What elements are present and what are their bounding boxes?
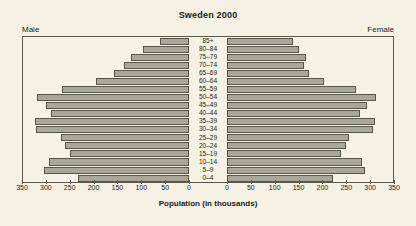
age-group-label: 70–74 [189,61,227,69]
bar-male [160,38,189,45]
tick-label: 150 [112,184,124,191]
bar-female [227,110,360,117]
population-pyramid-chart: Sweden 2000 Male Female 85+80–8475–7970–… [0,0,416,226]
pyramid-row [227,158,393,166]
bar-female [227,150,341,157]
pyramid-row [227,118,393,126]
pyramid-row [227,69,393,77]
age-group-label: 20–24 [189,142,227,150]
pyramid-row [23,126,189,134]
bar-female [227,142,346,149]
age-group-label: 30–34 [189,126,227,134]
tick-label: 0 [187,184,191,191]
bar-female [227,175,333,182]
bar-female [227,70,309,77]
tick-label: 50 [161,184,169,191]
bar-female [227,62,304,69]
bar-female [227,134,349,141]
age-group-label: 40–44 [189,110,227,118]
age-group-label: 10–14 [189,158,227,166]
pyramid-row [23,166,189,174]
x-axis-title: Population (in thousands) [0,199,416,208]
bar-male [61,134,189,141]
pyramid-row [227,174,393,182]
bar-female [227,158,362,165]
tick-label: 350 [388,184,400,191]
bar-female [227,126,373,133]
pyramid-row [23,85,189,93]
bar-male [114,70,189,77]
tick-label: 100 [135,184,147,191]
age-group-label: 55–59 [189,85,227,93]
tick-label: 250 [64,184,76,191]
pyramid-row [23,134,189,142]
tick-label: 50 [247,184,255,191]
pyramid-row [227,142,393,150]
tick-label: 150 [293,184,305,191]
male-bar-rows [23,37,189,182]
tick-label: 200 [88,184,100,191]
pyramid-row [227,166,393,174]
male-plot-panel [22,36,189,183]
age-group-labels: 85+80–8475–7970–7465–6960–6455–5950–5445… [189,36,227,183]
age-group-label: 85+ [189,37,227,45]
pyramid-row [227,126,393,134]
pyramid-row [23,158,189,166]
pyramid-row [23,110,189,118]
bar-female [227,78,324,85]
tick-label: 100 [269,184,281,191]
pyramid-row [23,150,189,158]
bar-female [227,167,365,174]
pyramid-row [227,102,393,110]
bar-male [124,62,189,69]
age-group-label: 0–4 [189,174,227,182]
bar-male [46,102,189,109]
bar-male [143,46,189,53]
tick-label: 300 [364,184,376,191]
age-group-label: 80–84 [189,45,227,53]
pyramid-row [227,150,393,158]
bar-female [227,102,367,109]
age-group-label: 50–54 [189,93,227,101]
age-group-label: 60–64 [189,77,227,85]
chart-title: Sweden 2000 [0,10,416,20]
pyramid-row [227,53,393,61]
age-group-label: 25–29 [189,134,227,142]
bar-male [37,94,189,101]
tick-label: 0 [225,184,229,191]
age-group-label: 45–49 [189,102,227,110]
bar-female [227,86,356,93]
bar-male [44,167,189,174]
pyramid-row [227,110,393,118]
pyramid-row [227,61,393,69]
pyramid-row [23,37,189,45]
bar-male [70,150,189,157]
pyramid-row [227,37,393,45]
female-x-axis-ticks: 050100150200250300350 [227,184,394,196]
tick-label: 300 [40,184,52,191]
bar-female [227,118,375,125]
bar-male [35,118,189,125]
bar-female [227,46,299,53]
pyramid-row [23,102,189,110]
pyramid-row [23,118,189,126]
tick-label: 250 [340,184,352,191]
pyramid-row [23,45,189,53]
pyramid-row [227,85,393,93]
pyramid-row [23,69,189,77]
age-group-label: 35–39 [189,118,227,126]
pyramid-row [227,93,393,101]
pyramid-row [23,77,189,85]
female-side-label: Female [367,25,394,34]
bar-male [65,142,189,149]
bar-female [227,94,376,101]
pyramid-row [23,93,189,101]
age-group-label: 15–19 [189,150,227,158]
age-group-label: 65–69 [189,69,227,77]
tick-label: 350 [16,184,28,191]
pyramid-row [23,174,189,182]
age-group-label: 75–79 [189,53,227,61]
pyramid-row [227,134,393,142]
bar-male [49,158,189,165]
bar-male [96,78,189,85]
